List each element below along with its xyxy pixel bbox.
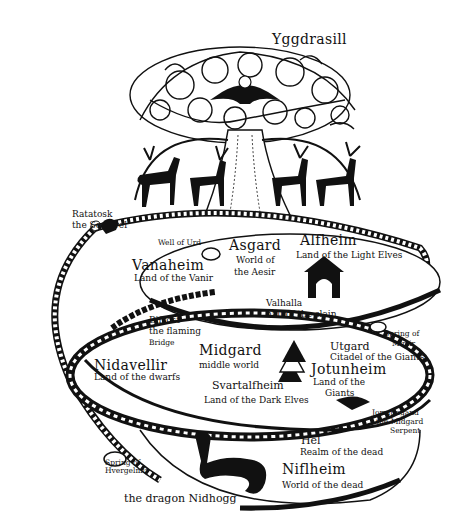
bifrost-desc-1: the flaming: [149, 327, 201, 336]
yggdrasil-diagram: Yggdrasill Ratatosk the Squirrel Well of…: [0, 0, 474, 529]
alfheim-desc: Land of the Light Elves: [296, 251, 402, 260]
hel-name: Hel: [301, 435, 321, 447]
well-of-urd-label: Well of Urd: [158, 239, 201, 247]
nidavellir-desc: Land of the dwarfs: [94, 373, 180, 382]
hel-desc: Realm of the dead: [300, 448, 383, 457]
midgard-desc: middle world: [199, 361, 259, 370]
spring-hvergelmir-line2: Hvergelmir: [105, 467, 149, 475]
svartalfheim-name: Svartalfheim: [212, 380, 284, 392]
jotunheim-desc-2: Giants: [325, 389, 354, 398]
valhalla-name: Valhalla: [266, 299, 302, 308]
asgard-desc-2: the Aesir: [234, 268, 275, 277]
vanaheim-desc: Land of the Vanir: [134, 274, 213, 283]
spring-mimir-line2: Mimir: [392, 340, 415, 348]
niflheim-desc: World of the dead: [282, 481, 363, 490]
jormungand-desc-2: Serpent: [390, 427, 420, 435]
jormungand-head-icon: [336, 396, 370, 410]
alfheim-name: Alfheim: [300, 233, 357, 248]
jormungand-name: Jormungand: [372, 409, 419, 417]
svartalfheim-desc: Land of the Dark Elves: [204, 396, 309, 405]
jotunheim-name: Jotunheim: [311, 362, 386, 377]
asgard-name: Asgard: [229, 238, 281, 253]
midgard-name: Midgard: [199, 343, 262, 358]
utgard-name: Utgard: [330, 341, 370, 353]
bifrost-desc-2: Bridge: [149, 339, 175, 347]
jormungand-desc-1: the Midgard: [376, 418, 423, 426]
niflheim-name: Niflheim: [282, 462, 346, 477]
well-of-urd-icon: [202, 248, 220, 260]
ratatosk-name: Ratatosk: [72, 210, 112, 219]
mountain-icon: [278, 340, 306, 382]
title-yggdrasill: Yggdrasill: [272, 32, 347, 47]
bifrost-name: Bifrost: [149, 316, 180, 325]
ratatosk-desc: the Squirrel: [72, 221, 127, 230]
jotunheim-desc-1: Land of the: [313, 378, 365, 387]
spring-mimir-line1: Spring of: [384, 330, 419, 338]
vanaheim-name: Vanaheim: [132, 258, 204, 273]
asgard-desc-1: World of: [236, 256, 275, 265]
valhalla-desc: hall of the slain: [266, 310, 337, 319]
nidavellir-name: Nidavellir: [94, 358, 167, 373]
nidhogg-label: the dragon Nidhogg: [124, 493, 237, 505]
